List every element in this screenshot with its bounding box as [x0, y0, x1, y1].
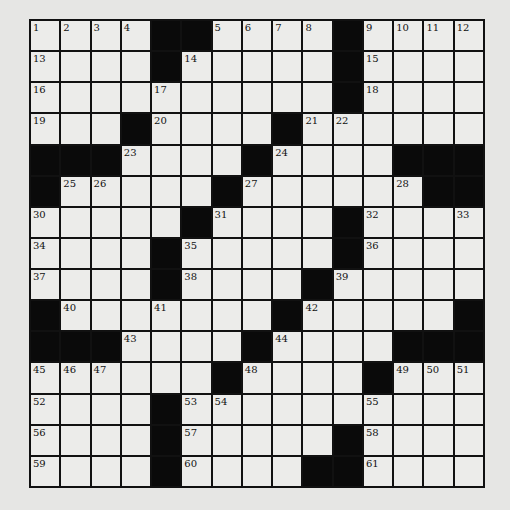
grid-cell[interactable] [61, 239, 89, 268]
grid-cell[interactable] [424, 270, 452, 299]
grid-cell[interactable] [334, 363, 362, 392]
grid-cell[interactable] [213, 301, 241, 330]
grid-cell[interactable] [394, 270, 422, 299]
grid-cell[interactable] [182, 332, 210, 361]
grid-cell[interactable]: 36 [364, 239, 392, 268]
grid-cell[interactable] [92, 426, 120, 455]
grid-cell[interactable] [92, 239, 120, 268]
grid-cell[interactable]: 50 [424, 363, 452, 392]
grid-cell[interactable] [152, 146, 180, 175]
grid-cell[interactable] [243, 457, 271, 486]
grid-cell[interactable] [303, 363, 331, 392]
grid-cell[interactable] [424, 301, 452, 330]
grid-cell[interactable] [122, 395, 150, 424]
grid-cell[interactable] [394, 114, 422, 143]
grid-cell[interactable]: 49 [394, 363, 422, 392]
grid-cell[interactable] [364, 146, 392, 175]
grid-cell[interactable] [213, 426, 241, 455]
grid-cell[interactable] [152, 363, 180, 392]
grid-cell[interactable]: 38 [182, 270, 210, 299]
grid-cell[interactable] [61, 114, 89, 143]
grid-cell[interactable] [61, 52, 89, 81]
grid-cell[interactable] [334, 177, 362, 206]
grid-cell[interactable] [122, 239, 150, 268]
grid-cell[interactable] [243, 208, 271, 237]
grid-cell[interactable]: 47 [92, 363, 120, 392]
grid-cell[interactable] [394, 239, 422, 268]
grid-cell[interactable] [334, 395, 362, 424]
grid-cell[interactable] [394, 83, 422, 112]
grid-cell[interactable] [92, 208, 120, 237]
grid-cell[interactable]: 34 [31, 239, 59, 268]
grid-cell[interactable]: 53 [182, 395, 210, 424]
grid-cell[interactable]: 42 [303, 301, 331, 330]
grid-cell[interactable] [61, 457, 89, 486]
grid-cell[interactable] [122, 208, 150, 237]
grid-cell[interactable] [213, 239, 241, 268]
grid-cell[interactable]: 26 [92, 177, 120, 206]
grid-cell[interactable] [92, 395, 120, 424]
grid-cell[interactable] [424, 208, 452, 237]
grid-cell[interactable] [122, 177, 150, 206]
grid-cell[interactable]: 4 [122, 21, 150, 50]
grid-cell[interactable]: 40 [61, 301, 89, 330]
grid-cell[interactable] [152, 208, 180, 237]
grid-cell[interactable] [303, 395, 331, 424]
grid-cell[interactable]: 59 [31, 457, 59, 486]
grid-cell[interactable]: 43 [122, 332, 150, 361]
grid-cell[interactable] [273, 395, 301, 424]
grid-cell[interactable] [122, 426, 150, 455]
grid-cell[interactable] [455, 52, 483, 81]
grid-cell[interactable]: 1 [31, 21, 59, 50]
grid-cell[interactable] [122, 270, 150, 299]
grid-cell[interactable]: 18 [364, 83, 392, 112]
grid-cell[interactable]: 5 [213, 21, 241, 50]
grid-cell[interactable]: 46 [61, 363, 89, 392]
grid-cell[interactable] [303, 426, 331, 455]
grid-cell[interactable] [243, 426, 271, 455]
grid-cell[interactable] [303, 332, 331, 361]
grid-cell[interactable] [243, 395, 271, 424]
grid-cell[interactable] [273, 52, 301, 81]
grid-cell[interactable] [61, 270, 89, 299]
grid-cell[interactable] [152, 332, 180, 361]
grid-cell[interactable] [243, 239, 271, 268]
grid-cell[interactable]: 25 [61, 177, 89, 206]
grid-cell[interactable] [364, 301, 392, 330]
grid-cell[interactable]: 60 [182, 457, 210, 486]
grid-cell[interactable] [92, 114, 120, 143]
grid-cell[interactable] [273, 457, 301, 486]
grid-cell[interactable] [394, 395, 422, 424]
grid-cell[interactable] [213, 52, 241, 81]
grid-cell[interactable] [243, 301, 271, 330]
grid-cell[interactable] [364, 332, 392, 361]
grid-cell[interactable] [394, 52, 422, 81]
grid-cell[interactable] [424, 239, 452, 268]
grid-cell[interactable] [455, 83, 483, 112]
grid-cell[interactable]: 30 [31, 208, 59, 237]
grid-cell[interactable] [394, 301, 422, 330]
grid-cell[interactable] [364, 114, 392, 143]
grid-cell[interactable]: 44 [273, 332, 301, 361]
grid-cell[interactable] [92, 52, 120, 81]
grid-cell[interactable]: 19 [31, 114, 59, 143]
grid-cell[interactable] [455, 239, 483, 268]
grid-cell[interactable] [243, 114, 271, 143]
grid-cell[interactable] [364, 270, 392, 299]
grid-cell[interactable]: 24 [273, 146, 301, 175]
grid-cell[interactable]: 10 [394, 21, 422, 50]
grid-cell[interactable]: 57 [182, 426, 210, 455]
grid-cell[interactable]: 23 [122, 146, 150, 175]
grid-cell[interactable]: 48 [243, 363, 271, 392]
grid-cell[interactable] [303, 52, 331, 81]
grid-cell[interactable] [394, 457, 422, 486]
grid-cell[interactable] [303, 83, 331, 112]
grid-cell[interactable] [61, 426, 89, 455]
grid-cell[interactable] [61, 395, 89, 424]
grid-cell[interactable]: 61 [364, 457, 392, 486]
grid-cell[interactable] [182, 114, 210, 143]
grid-cell[interactable]: 22 [334, 114, 362, 143]
grid-cell[interactable] [424, 457, 452, 486]
grid-cell[interactable] [182, 177, 210, 206]
grid-cell[interactable] [213, 332, 241, 361]
